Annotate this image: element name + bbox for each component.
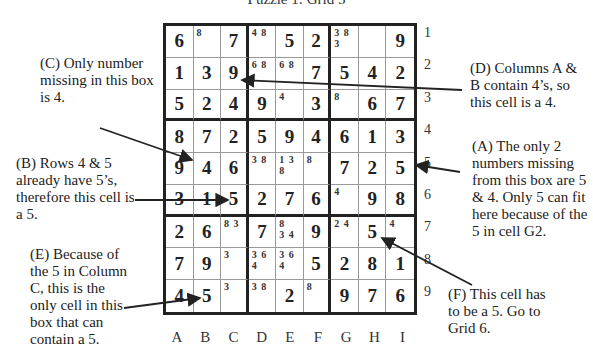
arrow-d <box>242 80 462 90</box>
arrow-e <box>124 298 200 308</box>
arrow-c <box>100 128 192 160</box>
annotation-arrows <box>0 0 593 355</box>
arrow-a <box>416 165 460 172</box>
arrow-f <box>382 238 472 285</box>
